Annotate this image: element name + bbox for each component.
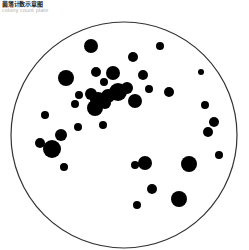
colony: [201, 101, 209, 109]
colony: [99, 97, 111, 109]
colony: [71, 100, 79, 108]
colony: [209, 117, 219, 127]
colony: [60, 163, 68, 171]
colony: [128, 52, 138, 62]
colony: [133, 201, 141, 209]
colony: [91, 67, 101, 77]
colony: [131, 161, 139, 169]
colony-group: [35, 39, 223, 209]
colony: [84, 39, 98, 53]
colony: [41, 111, 49, 119]
colony: [145, 85, 153, 93]
colony: [181, 156, 197, 172]
colony: [121, 82, 133, 94]
colony: [75, 91, 83, 99]
colony: [203, 127, 213, 137]
colony: [43, 140, 61, 158]
colony: [147, 184, 157, 194]
colony: [106, 66, 120, 80]
colony: [198, 69, 204, 75]
colony: [171, 191, 187, 207]
colony: [138, 156, 152, 170]
colony: [138, 70, 148, 80]
colony: [128, 94, 142, 108]
colony: [74, 123, 82, 131]
colony: [55, 129, 67, 141]
colony: [99, 121, 107, 129]
colony: [100, 78, 108, 86]
colony: [215, 151, 223, 159]
colony: [156, 42, 164, 50]
petri-dish: [0, 0, 249, 250]
colony: [164, 87, 174, 97]
colony: [58, 70, 74, 86]
petri-dish-outline: [11, 22, 237, 248]
